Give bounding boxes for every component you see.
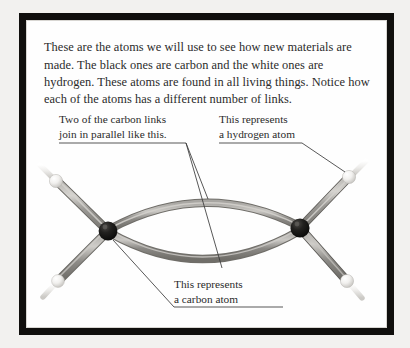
label-carbon-line1: This represents <box>174 277 243 292</box>
label-hydrogen-line1: This represents <box>219 112 295 127</box>
illustration-page: These are the atoms we will use to see h… <box>0 0 410 348</box>
label-carbon-atom: This represents a carbon atom <box>174 277 243 306</box>
label-hydrogen-atom: This represents a hydrogen atom <box>219 112 295 141</box>
intro-paragraph: These are the atoms we will use to see h… <box>44 39 374 108</box>
label-carbon-links-line1: Two of the carbon links <box>59 112 167 127</box>
label-carbon-line2: a carbon atom <box>174 292 243 307</box>
label-carbon-links: Two of the carbon links join in parallel… <box>59 112 167 141</box>
label-hydrogen-line2: a hydrogen atom <box>219 127 295 142</box>
label-carbon-links-line2: join in parallel like this. <box>59 127 167 142</box>
